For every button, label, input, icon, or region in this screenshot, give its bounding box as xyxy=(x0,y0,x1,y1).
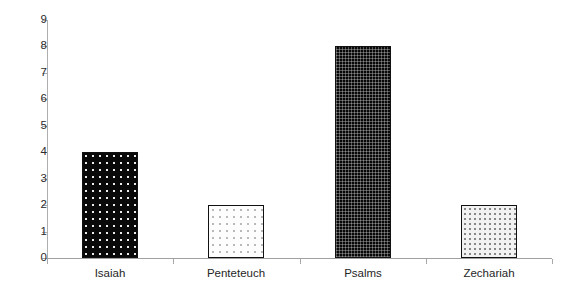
y-axis-tick-label: 5 xyxy=(13,120,47,132)
y-axis-tick-label: 9 xyxy=(13,14,47,26)
category-label-penteteuch: Penteteuch xyxy=(173,267,299,280)
bar-isaiah[interactable] xyxy=(82,152,138,258)
y-axis-line xyxy=(47,20,48,258)
bar-chart: 0123456789 IsaiahPenteteuchPsalmsZechari… xyxy=(0,0,565,293)
category-label-zechariah: Zechariah xyxy=(426,267,552,280)
x-axis-tick-mark xyxy=(426,259,427,264)
y-axis-tick-label: 0 xyxy=(13,252,47,264)
x-axis-tick-mark xyxy=(552,259,553,264)
bar-zechariah[interactable] xyxy=(461,205,517,258)
y-axis-tick-label: 6 xyxy=(13,93,47,105)
y-axis-tick-label: 4 xyxy=(13,146,47,158)
x-axis-tick-mark xyxy=(173,259,174,264)
category-label-psalms: Psalms xyxy=(300,267,426,280)
plot-area: 0123456789 IsaiahPenteteuchPsalmsZechari… xyxy=(0,0,565,293)
y-axis-tick-label: 3 xyxy=(13,173,47,185)
x-axis-tick-mark xyxy=(47,259,48,264)
y-axis-tick-label: 7 xyxy=(13,67,47,79)
y-axis-tick-label: 8 xyxy=(13,40,47,52)
category-label-isaiah: Isaiah xyxy=(47,267,173,280)
bar-penteteuch[interactable] xyxy=(208,205,264,258)
y-axis-tick-label: 1 xyxy=(13,226,47,238)
bar-psalms[interactable] xyxy=(335,46,391,258)
x-axis-tick-mark xyxy=(300,259,301,264)
y-axis-tick-label: 2 xyxy=(13,199,47,211)
